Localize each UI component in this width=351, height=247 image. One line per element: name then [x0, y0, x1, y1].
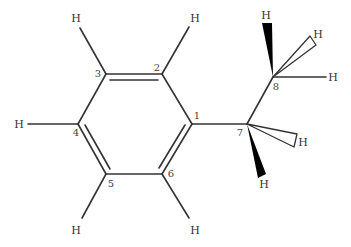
hydrogen-label-c5: H — [71, 225, 81, 236]
hydrogen-label-c6: H — [190, 225, 200, 236]
molecule-diagram: 1 2 3 4 5 6 7 8 H H H H H H H H H H — [0, 0, 351, 247]
hydrogen-label-c8-wedge: H — [261, 10, 271, 21]
hydrogen-label-c4: H — [14, 119, 24, 130]
hydrogen-label-c2: H — [190, 13, 200, 24]
bond-c3-c4 — [78, 74, 106, 124]
bond-c4-c5-inner — [85, 125, 110, 169]
bond-c7-c8 — [247, 77, 273, 124]
atom-number-8: 8 — [273, 82, 279, 92]
atom-number-4: 4 — [73, 128, 79, 138]
hydrogen-label-c7-wedge: H — [259, 179, 269, 190]
bond-c3-h — [80, 28, 106, 74]
bond-c4-c5 — [78, 124, 106, 174]
wedge-hash-c7-h — [247, 124, 297, 147]
wedge-hash-c8-h — [273, 36, 316, 77]
hydrogen-label-c8-hash: H — [313, 29, 323, 40]
bond-c2-h — [162, 27, 189, 74]
atom-number-6: 6 — [168, 169, 174, 179]
atom-number-5: 5 — [108, 179, 114, 189]
bond-c6-h — [162, 174, 189, 218]
bond-c5-h — [82, 174, 106, 218]
atom-number-2: 2 — [154, 63, 160, 73]
atom-number-3: 3 — [95, 69, 101, 79]
atom-number-1: 1 — [194, 111, 200, 121]
atom-number-7: 7 — [237, 128, 243, 138]
hydrogen-label-c7-hash: H — [298, 137, 308, 148]
bond-c6-c1 — [162, 124, 192, 174]
bond-c6-c1-inner — [159, 125, 185, 168]
hydrogen-label-c8-plain: H — [328, 72, 338, 83]
hydrogen-label-c3: H — [71, 13, 81, 24]
bond-c1-c2 — [162, 74, 192, 124]
structure-svg — [0, 0, 351, 247]
wedge-solid-c8-h — [262, 23, 273, 77]
